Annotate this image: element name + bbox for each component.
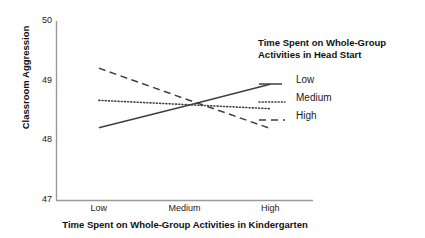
x-tick-label: High	[240, 203, 300, 213]
legend-item-high[interactable]: High	[258, 108, 425, 123]
legend-item-label: Medium	[296, 92, 332, 103]
series-layer	[99, 68, 270, 128]
legend-line-sample-solid	[258, 75, 288, 85]
y-tick-label: 49	[28, 75, 52, 85]
legend-title: Time Spent on Whole-Group Activities in …	[258, 37, 425, 61]
legend-item-low[interactable]: Low	[258, 72, 425, 87]
y-tick-label: 48	[28, 134, 52, 144]
y-axis-title: Classroom Aggression	[20, 13, 31, 143]
chart-legend: Time Spent on Whole-Group Activities in …	[258, 37, 425, 126]
legend-line-sample-dotted	[258, 93, 288, 103]
x-axis-title: Time Spent on Whole-Group Activities in …	[20, 219, 350, 230]
x-tick-label: Low	[69, 203, 129, 213]
y-tick-label: 50	[28, 15, 52, 25]
legend-title-line-2: Activities in Head Start	[258, 49, 425, 61]
series-line-high	[99, 68, 270, 128]
y-tick-label: 47	[28, 194, 52, 204]
series-line-low	[99, 84, 270, 128]
x-tick-label: Medium	[155, 203, 215, 213]
legend-title-line-1: Time Spent on Whole-Group	[258, 37, 425, 49]
legend-item-label: Low	[296, 74, 314, 85]
legend-line-sample-dashed	[258, 111, 288, 121]
legend-items: LowMediumHigh	[258, 72, 425, 123]
chart-figure: 47484950 LowMediumHigh Classroom Aggress…	[0, 0, 425, 238]
series-line-medium	[99, 100, 270, 108]
legend-item-medium[interactable]: Medium	[258, 90, 425, 105]
legend-item-label: High	[296, 110, 317, 121]
